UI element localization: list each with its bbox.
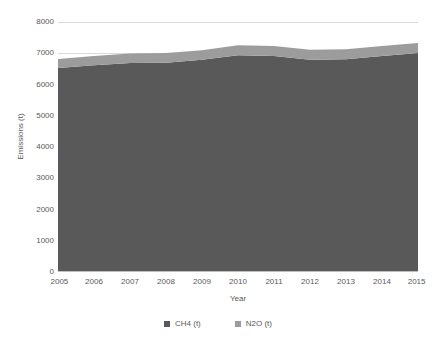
plot-area [58,22,418,272]
x-axis-tick-labels: 2005200620072008200920102011201220132014… [58,277,418,291]
x-tick-label: 2009 [193,277,211,286]
x-tick-label: 2011 [265,277,282,286]
area-series-ch4t [58,53,418,272]
x-tick-label: 2006 [85,277,103,286]
x-axis-title: Year [58,294,418,303]
legend-item-label: CH4 (t) [175,319,201,328]
square-marker-icon [235,321,241,327]
x-tick-label: 2015 [408,277,426,286]
y-tick-label: 5000 [0,112,54,120]
stacked-area-series [58,22,418,272]
square-marker-icon [164,321,170,327]
y-axis-title: Emissions (t) [16,87,25,187]
x-tick-label: 2008 [157,277,175,286]
legend-item-label: N2O (t) [246,319,272,328]
y-tick-label: 8000 [0,18,54,26]
y-tick-label: 3000 [0,174,54,182]
x-tick-label: 2012 [301,277,319,286]
y-tick-label: 1000 [0,237,54,245]
x-tick-label: 2005 [51,277,69,286]
x-tick-label: 2014 [373,277,391,286]
chart-legend: CH4 (t)N2O (t) [0,319,436,328]
x-tick-label: 2007 [121,277,139,286]
x-axis-line [58,271,418,272]
y-tick-label: 0 [0,268,54,276]
x-tick-label: 2010 [229,277,247,286]
y-tick-label: 2000 [0,206,54,214]
legend-item[interactable]: CH4 (t) [164,319,201,328]
legend-item[interactable]: N2O (t) [235,319,272,328]
y-tick-label: 7000 [0,49,54,57]
y-tick-label: 6000 [0,81,54,89]
y-tick-label: 4000 [0,143,54,151]
emissions-area-chart: Emissions (t) 01000200030004000500060007… [0,0,436,343]
x-tick-label: 2013 [337,277,355,286]
